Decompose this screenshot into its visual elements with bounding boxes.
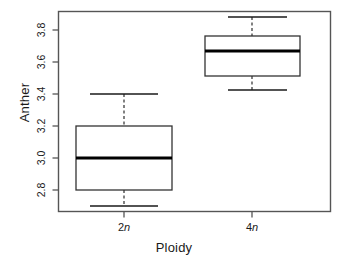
x-axis-ticks	[124, 212, 252, 218]
x-tick-label-2n: 2n	[118, 221, 130, 233]
x-tick-label-4n-italic: n	[252, 221, 258, 233]
boxplot-4n	[205, 17, 300, 90]
x-axis-title: Ploidy	[0, 240, 348, 255]
x-tick-label-4n: 4n	[246, 221, 258, 233]
y-tick-label-3: 3.4	[35, 87, 47, 102]
y-axis-tick-labels: 2.8 3.0 3.2 3.4 3.6 3.8	[35, 23, 47, 198]
x-tick-label-2n-italic: n	[124, 221, 130, 233]
y-axis-ticks	[53, 30, 59, 190]
y-tick-label-0: 2.8	[35, 183, 47, 198]
boxplot-2n	[76, 94, 172, 206]
x-axis-tick-labels: 2n 4n	[118, 221, 258, 233]
y-tick-label-4: 3.6	[35, 55, 47, 70]
box-iqr-4n	[205, 36, 300, 76]
y-tick-label-1: 3.0	[35, 151, 47, 166]
y-axis-title: Anther	[17, 63, 32, 143]
y-tick-label-2: 3.2	[35, 119, 47, 134]
boxplot-figure: 2.8 3.0 3.2 3.4 3.6 3.8 2n 4n	[0, 0, 348, 266]
plot-canvas: 2.8 3.0 3.2 3.4 3.6 3.8 2n 4n	[0, 0, 348, 266]
y-tick-label-5: 3.8	[35, 23, 47, 38]
